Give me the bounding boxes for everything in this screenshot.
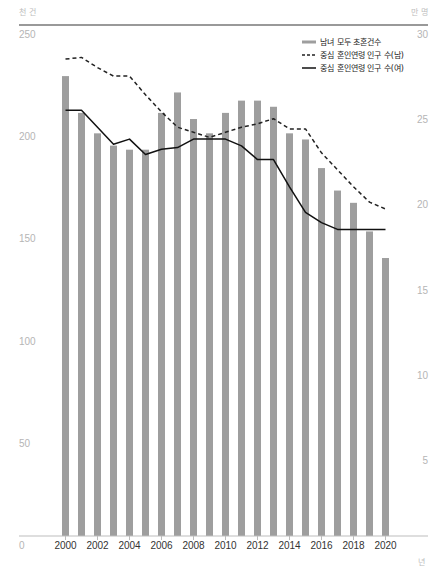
x-tick-label: 2014 [278,540,301,551]
x-tick-label: 2016 [310,540,333,551]
x-tick-label: 2004 [118,540,141,551]
x-tick-label: 2018 [342,540,365,551]
bar-series-first-marriages [62,76,389,536]
x-tick-label: 2000 [54,540,77,551]
left-axis: 050100150200250 [19,29,36,551]
x-axis-unit-label: 년 [418,557,425,567]
combo-chart: 천 건 만 명 050100150200250 51015202530 2000… [0,0,443,579]
bar-2005 [142,150,149,536]
bar-2018 [350,203,357,536]
bar-2017 [334,191,341,536]
right-tick-label: 20 [417,199,429,210]
left-tick-label: 100 [19,336,36,347]
bar-2010 [222,113,229,536]
bar-2007 [174,92,181,536]
right-tick-label: 15 [417,285,429,296]
bar-2004 [126,150,133,536]
legend-item: 중심 혼인연령 인구 수(남) [302,50,404,60]
bar-2000 [62,76,69,536]
bar-2011 [238,101,245,536]
bar-2001 [78,113,85,536]
bar-2003 [110,146,117,536]
left-axis-unit-label: 천 건 [19,7,36,17]
bar-2020 [382,258,389,536]
bar-2014 [286,133,293,536]
legend-label: 중심 혼인연령 인구 수(여) [320,63,404,73]
right-tick-label: 25 [417,114,429,125]
left-tick-label: 250 [19,29,36,40]
bar-2015 [302,139,309,536]
left-tick-label: 150 [19,233,36,244]
legend: 남녀 모두 초혼건수중심 혼인연령 인구 수(남)중심 혼인연령 인구 수(여) [302,37,404,73]
left-tick-label: 0 [19,540,25,551]
left-tick-label: 200 [19,131,36,142]
right-tick-label: 30 [417,29,429,40]
x-tick-label: 2012 [246,540,269,551]
bar-2006 [158,113,165,536]
x-tick-label: 2002 [86,540,109,551]
header: 천 건 만 명 [19,7,428,25]
bar-2012 [254,101,261,536]
x-axis: 2000200220042006200820102012201420162018… [54,536,397,551]
x-tick-label: 2006 [150,540,173,551]
bar-2013 [270,107,277,536]
bar-2008 [190,119,197,536]
right-tick-label: 5 [422,455,428,466]
legend-label: 남녀 모두 초혼건수 [320,37,381,47]
left-tick-label: 50 [19,438,31,449]
x-tick-label: 2008 [182,540,205,551]
right-tick-label: 10 [417,370,429,381]
right-axis-unit-label: 만 명 [411,7,428,17]
right-axis: 51015202530 [417,29,429,466]
x-tick-label: 2010 [214,540,237,551]
bar-2002 [94,133,101,536]
legend-item: 중심 혼인연령 인구 수(여) [302,63,404,73]
x-tick-label: 2020 [374,540,397,551]
legend-item: 남녀 모두 초혼건수 [302,37,381,47]
bar-2019 [366,231,373,536]
legend-label: 중심 혼인연령 인구 수(남) [320,50,404,60]
bar-2009 [206,133,213,536]
